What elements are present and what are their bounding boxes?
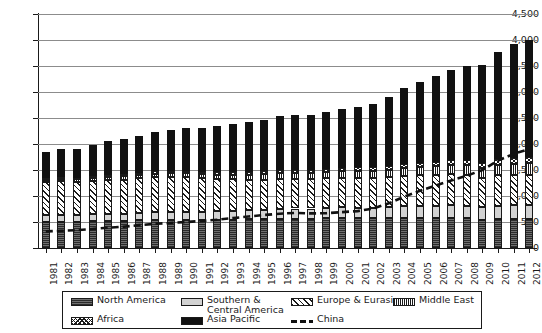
x-axis: 1981198219831984198519861987198819891990… bbox=[38, 249, 537, 289]
x-axis-tick-mark bbox=[326, 249, 327, 253]
x-axis-tick-label: 1990 bbox=[190, 262, 199, 285]
x-axis-tick-mark bbox=[186, 249, 187, 253]
x-axis-tick-label: 1989 bbox=[175, 262, 184, 285]
x-axis-tick-mark bbox=[124, 249, 125, 253]
legend-swatch-dark-horizontal-hatch-icon bbox=[71, 298, 93, 306]
x-axis-tick-mark bbox=[389, 249, 390, 253]
x-axis-tick-label: 1986 bbox=[128, 262, 137, 285]
x-axis-tick-mark bbox=[373, 249, 374, 253]
legend-item[interactable]: Asia Pacific bbox=[181, 314, 260, 325]
x-axis-tick-mark bbox=[108, 249, 109, 253]
x-axis-tick-mark bbox=[93, 249, 94, 253]
legend-item[interactable]: Africa bbox=[71, 314, 124, 325]
x-axis-tick-label: 1992 bbox=[221, 262, 230, 285]
x-axis-tick-label: 1985 bbox=[112, 262, 121, 285]
x-axis-tick-label: 1994 bbox=[253, 262, 262, 285]
x-axis-tick-label: 2007 bbox=[455, 262, 464, 285]
x-axis-tick-label: 1983 bbox=[81, 262, 90, 285]
x-axis-tick-label: 1998 bbox=[315, 262, 324, 285]
legend-row: AfricaAsia PacificChina bbox=[63, 312, 481, 331]
x-axis-tick-label: 2002 bbox=[377, 262, 386, 285]
legend-label: Asia Pacific bbox=[207, 314, 260, 324]
x-axis-tick-mark bbox=[482, 249, 483, 253]
x-axis-tick-mark bbox=[342, 249, 343, 253]
x-axis-tick-label: 2000 bbox=[346, 262, 355, 285]
x-axis-tick-label: 1993 bbox=[237, 262, 246, 285]
legend-item[interactable]: North America bbox=[71, 295, 166, 306]
x-axis-tick-label: 1982 bbox=[65, 262, 74, 285]
x-axis-tick-label: 1991 bbox=[206, 262, 215, 285]
x-axis-tick-mark bbox=[155, 249, 156, 253]
x-axis-tick-mark bbox=[249, 249, 250, 253]
x-axis-tick-mark bbox=[77, 249, 78, 253]
x-axis-tick-mark bbox=[233, 249, 234, 253]
x-axis-tick-label: 2003 bbox=[393, 262, 402, 285]
x-axis-tick-label: 2009 bbox=[486, 262, 495, 285]
x-axis-tick-mark bbox=[295, 249, 296, 253]
x-axis-tick-label: 1999 bbox=[330, 262, 339, 285]
x-axis-tick-mark bbox=[311, 249, 312, 253]
x-axis-tick-mark bbox=[217, 249, 218, 253]
x-axis-tick-label: 2012 bbox=[533, 262, 542, 285]
x-axis-tick-mark bbox=[358, 249, 359, 253]
x-axis-tick-mark bbox=[264, 249, 265, 253]
legend-label: China bbox=[317, 314, 344, 324]
x-axis-tick-label: 1981 bbox=[50, 262, 59, 285]
legend-item[interactable]: Middle East bbox=[393, 295, 474, 306]
x-axis-tick-label: 2006 bbox=[440, 262, 449, 285]
x-axis-tick-mark bbox=[280, 249, 281, 253]
x-axis-tick-label: 1984 bbox=[97, 262, 106, 285]
legend-label: North America bbox=[97, 295, 166, 305]
legend-row: North AmericaSouthern & Central AmericaE… bbox=[63, 293, 481, 312]
x-axis-tick-mark bbox=[171, 249, 172, 253]
legend-label: Middle East bbox=[419, 295, 474, 305]
x-axis-tick-label: 2005 bbox=[424, 262, 433, 285]
legend-swatch-dense-vertical-hatch-icon bbox=[393, 298, 415, 306]
legend-swatch-solid-black-icon bbox=[181, 317, 203, 325]
x-axis-tick-mark bbox=[404, 249, 405, 253]
legend-swatch-dashed-line-icon bbox=[291, 317, 313, 325]
legend-swatch-light-grey-solid-icon bbox=[181, 298, 203, 306]
legend-item[interactable]: China bbox=[291, 314, 344, 325]
legend-item[interactable]: Europe & Eurasia bbox=[291, 295, 399, 306]
legend-label: Africa bbox=[97, 314, 124, 324]
x-axis-tick-mark bbox=[514, 249, 515, 253]
x-axis-tick-mark bbox=[451, 249, 452, 253]
x-axis-tick-label: 2001 bbox=[362, 262, 371, 285]
x-axis-tick-label: 1997 bbox=[299, 262, 308, 285]
x-axis-tick-label: 1996 bbox=[284, 262, 293, 285]
x-axis-tick-label: 2008 bbox=[471, 262, 480, 285]
x-axis-tick-mark bbox=[420, 249, 421, 253]
x-axis-tick-mark bbox=[529, 249, 530, 253]
legend-label: Europe & Eurasia bbox=[317, 295, 399, 305]
x-axis-tick-mark bbox=[498, 249, 499, 253]
x-axis-tick-mark bbox=[46, 249, 47, 253]
chart-legend: North AmericaSouthern & Central AmericaE… bbox=[62, 291, 482, 329]
x-axis-tick-label: 1987 bbox=[143, 262, 152, 285]
x-axis-tick-label: 1988 bbox=[159, 262, 168, 285]
x-axis-tick-mark bbox=[202, 249, 203, 253]
x-axis-tick-label: 2010 bbox=[502, 262, 511, 285]
x-axis-tick-label: 2011 bbox=[518, 262, 527, 285]
x-axis-tick-label: 1995 bbox=[268, 262, 277, 285]
legend-swatch-diagonal-hatch-icon bbox=[291, 298, 313, 306]
legend-swatch-dotted-diamond-icon bbox=[71, 317, 93, 325]
x-axis-tick-mark bbox=[436, 249, 437, 253]
x-axis-tick-mark bbox=[467, 249, 468, 253]
china-line-series bbox=[38, 14, 537, 248]
x-axis-tick-mark bbox=[139, 249, 140, 253]
x-axis-tick-mark bbox=[61, 249, 62, 253]
x-axis-tick-label: 2004 bbox=[408, 262, 417, 285]
plot-area bbox=[38, 14, 537, 248]
